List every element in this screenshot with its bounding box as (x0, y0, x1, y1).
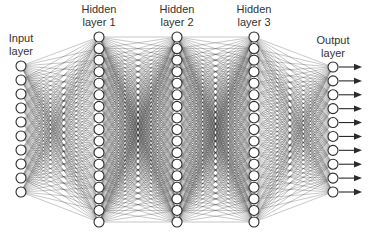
connection-edge (254, 123, 333, 211)
hidden2-neuron (172, 113, 182, 123)
hidden1-neuron (94, 159, 104, 169)
hidden2-neuron (172, 182, 182, 192)
hidden1-neuron (94, 182, 104, 192)
input-neuron (16, 145, 26, 155)
hidden3-neuron (249, 136, 259, 146)
arrow-head-icon (354, 175, 362, 181)
input-neuron (16, 75, 26, 85)
arrow-head-icon (354, 64, 362, 70)
hidden3-neuron (249, 90, 259, 100)
hidden2-neuron (172, 44, 182, 54)
connection-edge (254, 60, 333, 109)
hidden3-neuron (249, 182, 259, 192)
hidden3-neuron (249, 148, 259, 158)
hidden1-neuron (94, 148, 104, 158)
hidden3-neuron (249, 194, 259, 204)
hidden2-neuron (172, 159, 182, 169)
hidden2-neuron (172, 55, 182, 65)
hidden-layer-3-label-line2: layer 3 (224, 16, 284, 29)
hidden3-neuron (249, 32, 259, 42)
input-neuron (16, 103, 26, 113)
output-neuron (328, 90, 338, 100)
hidden1-neuron (94, 101, 104, 111)
hidden2-neuron (172, 78, 182, 88)
hidden1-neuron (94, 32, 104, 42)
hidden1-neuron (94, 171, 104, 181)
hidden2-neuron (172, 32, 182, 42)
hidden1-neuron (94, 67, 104, 77)
connection-edge (254, 178, 333, 210)
hidden1-neuron (94, 90, 104, 100)
connection-edge (21, 83, 99, 108)
arrow-head-icon (354, 133, 362, 139)
arrow-head-icon (354, 78, 362, 84)
output-neuron (328, 159, 338, 169)
hidden2-neuron (172, 171, 182, 181)
connection-edge (254, 123, 333, 165)
input-neuron (16, 61, 26, 71)
output-neuron (328, 145, 338, 155)
input-neuron (16, 187, 26, 197)
hidden3-neuron (249, 55, 259, 65)
hidden1-neuron (94, 113, 104, 123)
input-neuron (16, 117, 26, 127)
hidden1-neuron (94, 78, 104, 88)
hidden1-neuron (94, 205, 104, 215)
arrow-head-icon (354, 147, 362, 153)
hidden1-neuron (94, 194, 104, 204)
hidden3-neuron (249, 125, 259, 135)
hidden3-neuron (249, 67, 259, 77)
hidden2-neuron (172, 194, 182, 204)
connection-edge (21, 150, 99, 199)
hidden2-neuron (172, 205, 182, 215)
hidden3-neuron (249, 113, 259, 123)
hidden1-neuron (94, 55, 104, 65)
arrow-head-icon (354, 92, 362, 98)
connection-edge (254, 178, 333, 222)
hidden-layer-2-label-line2: layer 2 (147, 16, 207, 29)
hidden-layer-1-label-line1: Hidden (69, 3, 129, 16)
neuron-nodes (16, 32, 338, 227)
output-neuron (328, 187, 338, 197)
hidden3-neuron (249, 101, 259, 111)
arrow-head-icon (354, 119, 362, 125)
hidden1-neuron (94, 44, 104, 54)
hidden3-neuron (249, 78, 259, 88)
arrow-head-icon (354, 189, 362, 195)
output-neuron (328, 62, 338, 72)
input-layer-label-line2: layer (0, 45, 51, 58)
hidden2-neuron (172, 67, 182, 77)
output-neuron (328, 118, 338, 128)
connection-edge (21, 178, 99, 222)
hidden2-neuron (172, 217, 182, 227)
hidden-layer-2-label-line1: Hidden (147, 3, 207, 16)
hidden2-neuron (172, 101, 182, 111)
input-neuron (16, 131, 26, 141)
arrow-head-icon (354, 161, 362, 167)
hidden-layer-2-label: Hidden layer 2 (147, 3, 207, 29)
hidden-layer-3-label: Hidden layer 3 (224, 3, 284, 29)
hidden3-neuron (249, 205, 259, 215)
connection-edge (254, 109, 333, 222)
output-arrows (339, 64, 362, 195)
hidden1-neuron (94, 136, 104, 146)
hidden2-neuron (172, 90, 182, 100)
hidden2-neuron (172, 136, 182, 146)
connection-edge (21, 66, 99, 72)
input-layer-label: Input layer (0, 32, 51, 58)
hidden1-neuron (94, 217, 104, 227)
hidden-layer-3-label-line1: Hidden (224, 3, 284, 16)
output-layer-label-line2: layer (303, 47, 363, 60)
hidden3-neuron (249, 44, 259, 54)
hidden2-neuron (172, 148, 182, 158)
hidden1-neuron (94, 125, 104, 135)
input-layer-label-line1: Input (0, 32, 51, 45)
connection-edge (254, 150, 333, 199)
hidden2-neuron (172, 125, 182, 135)
hidden-layer-1-label-line2: layer 1 (69, 16, 129, 29)
arrow-head-icon (354, 105, 362, 111)
output-neuron (328, 76, 338, 86)
hidden3-neuron (249, 171, 259, 181)
input-neuron (16, 159, 26, 169)
hidden3-neuron (249, 159, 259, 169)
